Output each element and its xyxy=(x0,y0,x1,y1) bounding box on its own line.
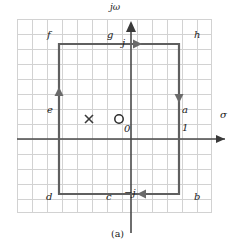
label-origin-zero: 0 xyxy=(124,124,130,134)
singularity-markers xyxy=(17,19,212,213)
axis-label-jomega: jω xyxy=(110,3,120,12)
label-d: d xyxy=(46,192,52,202)
label-f: f xyxy=(47,30,51,40)
axis-label-sigma: σ xyxy=(220,110,227,120)
plot-area xyxy=(17,19,212,213)
label-e: e xyxy=(47,105,53,115)
label-a: a xyxy=(182,105,188,115)
complex-plane-contour-figure: f g j h e a 1 0 d c −j b jω σ (a) xyxy=(0,0,235,249)
origin-circle-icon xyxy=(115,115,123,123)
label-j-positive: j xyxy=(122,38,125,48)
label-c: c xyxy=(106,192,112,202)
real-axis-arrowhead xyxy=(216,135,225,143)
label-one: 1 xyxy=(182,123,188,133)
label-g: g xyxy=(107,30,113,40)
label-b: b xyxy=(194,192,200,202)
label-j-negative: −j xyxy=(124,188,135,198)
figure-caption: (a) xyxy=(0,228,235,239)
label-h: h xyxy=(194,30,200,40)
pole-cross-icon xyxy=(85,115,93,123)
